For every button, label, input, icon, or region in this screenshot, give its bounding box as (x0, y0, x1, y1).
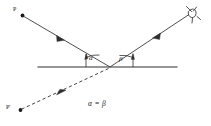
virtual-ray-arrowhead (57, 89, 67, 95)
virtual-image-label: P' (6, 104, 10, 110)
reflection-diagram: P P' α β α = β (0, 0, 211, 126)
source-point-dot (21, 14, 25, 18)
incident-ray-arrowhead (57, 36, 65, 42)
angle-beta-label: β (119, 56, 123, 63)
incident-ray (24, 17, 110, 68)
angle-beta-arc-head (131, 53, 134, 59)
equation-label: α = β (88, 100, 106, 108)
angle-alpha-label: α (89, 55, 93, 62)
source-point-label: P (13, 6, 16, 12)
reflected-ray-arrowhead (153, 33, 161, 40)
virtual-image-dot (19, 108, 23, 112)
eye-icon (187, 7, 201, 24)
